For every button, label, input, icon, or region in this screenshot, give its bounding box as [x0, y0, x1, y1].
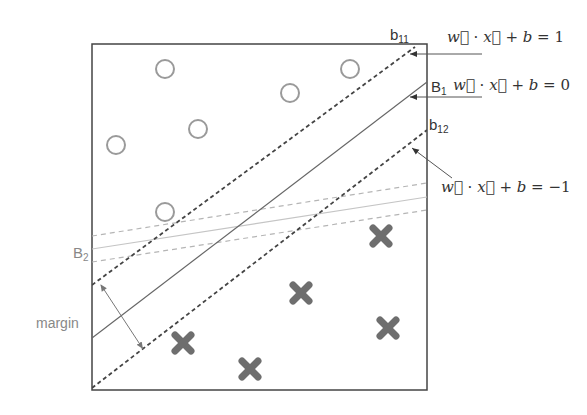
b12-margin-line [92, 130, 427, 388]
equation-plus-one: w⃗ · x⃗ + b = 1 [447, 30, 564, 45]
label-b11-sub: 11 [398, 34, 408, 45]
cross-class-points [175, 228, 396, 377]
label-B2: B2 [73, 245, 89, 263]
equation-zero: w⃗ · x⃗ + b = 0 [453, 78, 570, 93]
b1-decision-line [92, 82, 427, 338]
label-B2-main: B [73, 244, 83, 261]
equation-minus-one: w⃗ · x⃗ + b = −1 [441, 180, 571, 195]
cross-point [293, 285, 309, 301]
eq-rhs: −1 [548, 178, 570, 196]
circle-point [281, 84, 299, 102]
eq-b: b [517, 178, 527, 196]
b11-margin-line [92, 47, 415, 285]
svm-diagram-canvas [0, 0, 587, 415]
cross-point [175, 335, 191, 351]
label-margin: margin [36, 316, 79, 330]
eq-w-vector: w⃗ [447, 28, 469, 46]
margin-arrow [101, 285, 143, 349]
eq-minus-one-arrow [412, 148, 452, 178]
eq-rhs: 0 [560, 76, 570, 94]
cross-point [242, 361, 258, 377]
eq-w-vector: w⃗ [441, 178, 463, 196]
circle-point [156, 60, 174, 78]
label-b12-sub: 12 [437, 124, 448, 135]
label-B1-main: B [431, 78, 441, 95]
label-B2-sub: 2 [83, 252, 89, 263]
eq-x-vector: x⃗ [489, 76, 506, 94]
cross-point [380, 320, 396, 336]
circle-point [107, 136, 125, 154]
circle-point [156, 203, 174, 221]
label-B1: B1 [431, 79, 447, 97]
eq-b: b [523, 28, 533, 46]
plot-frame [92, 44, 427, 390]
eq-w-vector: w⃗ [453, 76, 475, 94]
eq-x-vector: x⃗ [477, 178, 494, 196]
label-B1-sub: 1 [441, 86, 447, 97]
circle-point [341, 60, 359, 78]
circle-point [189, 120, 207, 138]
eq-rhs: 1 [554, 28, 564, 46]
eq-b: b [529, 76, 539, 94]
cross-point [373, 228, 389, 244]
circle-class-points [107, 60, 359, 221]
label-b11: b11 [390, 27, 409, 45]
eq-x-vector: x⃗ [483, 28, 500, 46]
label-b12: b12 [429, 117, 448, 135]
